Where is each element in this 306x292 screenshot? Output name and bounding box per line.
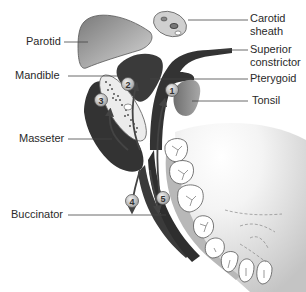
marker-3: 3 — [95, 94, 108, 107]
label-buccinator: Buccinator — [11, 208, 63, 221]
label-pterygoid: Pterygoid — [250, 72, 296, 85]
tonsil-shape — [174, 80, 201, 116]
label-parotid: Parotid — [26, 35, 61, 48]
svg-text:4: 4 — [129, 197, 134, 207]
label-masseter: Masseter — [19, 132, 64, 145]
marker-4: 4 — [126, 195, 139, 208]
marker-5: 5 — [157, 192, 170, 205]
label-carotid-line2: sheath — [250, 25, 285, 38]
marker-2: 2 — [122, 78, 135, 91]
label-tonsil: Tonsil — [252, 94, 280, 107]
label-carotid-sheath: Carotid sheath — [250, 12, 285, 38]
carotid-sheath-shape — [150, 7, 190, 41]
svg-text:1: 1 — [169, 86, 174, 96]
label-carotid-line1: Carotid — [250, 12, 285, 25]
label-superior-line2: constrictor — [250, 56, 301, 69]
label-superior-line1: Superior — [250, 43, 301, 56]
label-superior-constrictor: Superior constrictor — [250, 43, 301, 69]
label-mandible: Mandible — [15, 69, 60, 82]
marker-1: 1 — [166, 84, 179, 97]
svg-text:3: 3 — [98, 96, 103, 106]
svg-text:5: 5 — [160, 194, 165, 204]
svg-text:2: 2 — [125, 80, 130, 90]
